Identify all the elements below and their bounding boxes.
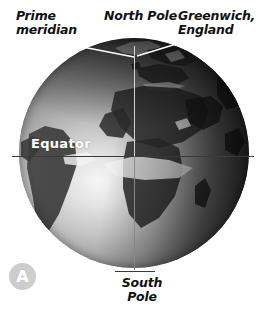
panel-badge-letter: A	[9, 263, 36, 290]
label-prime-meridian: Prime meridian	[16, 9, 77, 36]
equator-line	[12, 156, 254, 157]
label-south-pole: South Pole	[112, 276, 172, 303]
label-north-pole: North Pole	[104, 9, 177, 23]
label-greenwich-england: Greenwich, England	[178, 9, 255, 36]
south-pole-tick	[115, 271, 155, 272]
label-equator: Equator	[31, 136, 91, 151]
panel-badge-a: A	[9, 263, 36, 290]
prime-meridian-line-lower	[134, 156, 135, 270]
globe-figure: Prime meridian North Pole Greenwich, Eng…	[0, 0, 266, 310]
